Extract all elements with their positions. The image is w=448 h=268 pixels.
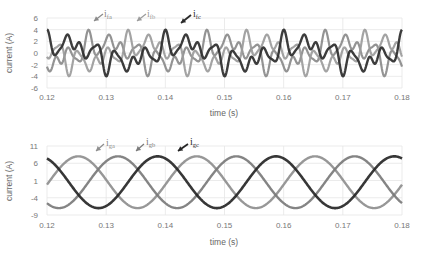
x-tick-label: 0.13 (98, 93, 114, 102)
annotation-i-gb: igb (136, 136, 155, 151)
y-axis-title: current (A) (4, 161, 14, 201)
series-label: igb (146, 136, 155, 148)
x-axis-title: time (s) (210, 108, 239, 118)
series-annotations: ifaifbifc (94, 8, 201, 23)
y-tick-labels: 6420-2-4-6 (31, 14, 39, 93)
x-tick-labels: 0.120.130.140.150.160.170.18 (39, 93, 410, 102)
x-tick-labels: 0.120.130.140.150.160.170.18 (39, 221, 410, 230)
y-tick-label: -2 (31, 61, 39, 70)
annotation-i-fb: ifb (137, 8, 155, 21)
x-tick-label: 0.13 (98, 221, 114, 230)
y-tick-label: -6 (31, 84, 39, 93)
x-tick-label: 0.16 (276, 93, 292, 102)
y-tick-label: 6 (34, 159, 39, 168)
x-tick-label: 0.12 (39, 221, 55, 230)
y-tick-label: 0 (34, 49, 39, 58)
series-label: igc (190, 136, 199, 148)
x-tick-label: 0.14 (158, 93, 174, 102)
y-axis-title: current (A) (4, 33, 14, 73)
x-tick-label: 0.16 (276, 221, 292, 230)
filter-current-plot: 6420-2-4-6 0.120.130.140.150.160.170.18 … (0, 0, 448, 132)
y-tick-label: -4 (31, 194, 39, 203)
x-tick-label: 0.18 (394, 221, 410, 230)
filter-current-chart: 6420-2-4-6 0.120.130.140.150.160.170.18 … (0, 0, 448, 132)
x-tick-label: 0.17 (335, 93, 351, 102)
series-label: iga (106, 137, 115, 149)
x-tick-label: 0.15 (217, 93, 233, 102)
y-tick-label: 1 (34, 177, 39, 186)
x-tick-label: 0.14 (158, 221, 174, 230)
x-tick-label: 0.17 (335, 221, 351, 230)
y-tick-label: -9 (31, 211, 39, 220)
series-annotations: igaigbigc (96, 136, 199, 151)
series-label: ifa (104, 8, 112, 20)
series-label: ifc (193, 8, 201, 20)
y-tick-labels: 1161-4-9 (30, 142, 39, 220)
y-tick-label: 11 (30, 142, 39, 151)
grid-current-chart: 1161-4-9 0.120.130.140.150.160.170.18 ti… (0, 134, 448, 268)
x-tick-label: 0.15 (217, 221, 233, 230)
y-tick-label: 6 (34, 14, 39, 23)
x-axis-title: time (s) (210, 237, 239, 247)
y-tick-label: 4 (34, 26, 39, 35)
y-tick-label: -4 (31, 72, 39, 81)
annotation-i-fa: ifa (94, 8, 112, 21)
annotation-i-fc: ifc (181, 8, 201, 23)
grid-current-plot: 1161-4-9 0.120.130.140.150.160.170.18 ti… (0, 134, 448, 268)
annotation-i-gc: igc (178, 136, 199, 151)
x-tick-label: 0.18 (394, 93, 410, 102)
annotation-i-ga: iga (96, 137, 115, 151)
series-label: ifb (147, 8, 155, 20)
x-tick-label: 0.12 (39, 93, 55, 102)
y-tick-label: 2 (34, 37, 39, 46)
